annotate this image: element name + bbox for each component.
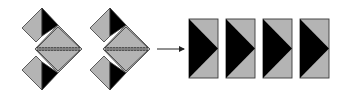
rectangle-1 (189, 19, 218, 78)
rectangle-3 (263, 19, 292, 78)
rectangle-4 (300, 19, 329, 78)
diagram-canvas (0, 0, 347, 94)
result-rectangles (189, 19, 329, 78)
folded-unit-1 (22, 8, 82, 90)
folded-unit-2 (90, 8, 150, 90)
top-square-grey-half (22, 8, 42, 42)
top-square-grey-half (90, 8, 110, 42)
rectangle-2 (226, 19, 255, 78)
bottom-square-grey-half (90, 56, 110, 90)
bottom-square-grey-half (22, 56, 42, 90)
